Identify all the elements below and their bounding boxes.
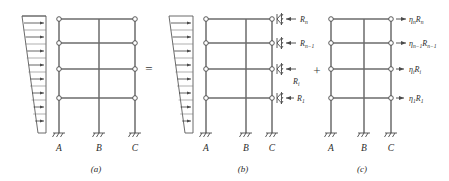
frame-c [325, 17, 398, 137]
force-label-c-n-1: ηn−1Rn−1 [409, 39, 437, 49]
figure-container: A B C (a) = [0, 0, 449, 181]
support-label-a-B: B [96, 143, 102, 153]
force-label-b-1: R1 [296, 94, 305, 104]
frame-a [53, 17, 142, 137]
reaction-support-b-i [277, 63, 283, 75]
reaction-support-b-1 [277, 92, 283, 104]
panel-caption-c: (c) [357, 164, 367, 174]
force-label-c-i: ηiRi [409, 65, 421, 75]
support-label-b-A: A [202, 143, 209, 153]
support-label-c-C: C [388, 143, 395, 153]
supports-c [325, 133, 398, 137]
frame-b [200, 17, 279, 137]
plus-operator: + [313, 63, 320, 78]
panel-a: A B C (a) [22, 16, 141, 174]
triangular-load-b [169, 16, 193, 133]
support-label-a-A: A [55, 143, 62, 153]
reaction-support-b-n-1 [277, 37, 283, 49]
supports-a [53, 133, 142, 137]
reaction-supports-b: Rn Rn−1 Ri [277, 13, 314, 104]
force-label-b-n-1: Rn−1 [299, 39, 314, 49]
panel-b: Rn Rn−1 Ri [169, 13, 314, 174]
panel-caption-b: (b) [238, 164, 249, 174]
applied-forces-c: ηnRn ηn−1Rn−1 ηiRi η1R1 [396, 15, 437, 104]
panel-caption-a: (a) [91, 164, 102, 174]
hinge-joints-b [204, 17, 275, 101]
force-label-c-1: η1R1 [409, 94, 424, 104]
force-label-b-i: Ri [292, 77, 300, 87]
support-label-c-A: A [327, 143, 334, 153]
supports-b [200, 133, 279, 137]
reaction-support-b-n [277, 13, 283, 25]
equals-operator: = [145, 61, 152, 76]
support-label-a-C: C [132, 143, 139, 153]
panel-c: ηnRn ηn−1Rn−1 ηiRi η1R1 A B C (c) [325, 15, 437, 174]
force-label-b-n: Rn [299, 15, 308, 25]
support-label-b-B: B [243, 143, 249, 153]
triangular-load-a [22, 16, 46, 133]
hinge-joints-a [57, 17, 138, 101]
support-label-c-B: B [361, 143, 367, 153]
support-label-b-C: C [269, 143, 276, 153]
force-label-c-n: ηnRn [409, 15, 424, 25]
hinge-joints-c [329, 17, 394, 101]
